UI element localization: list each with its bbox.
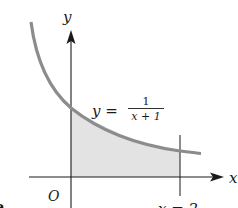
equation-numerator: 1 <box>143 95 150 108</box>
equation-denominator: x + 1 <box>131 110 160 123</box>
boundary-label: x = 2 <box>158 200 198 208</box>
x-axis-label: x <box>229 169 238 187</box>
origin-label: O <box>48 188 60 204</box>
area-diagram: y x O y = 1 x + 1 x = 2 a <box>0 0 238 208</box>
corner-glyph: a <box>0 198 5 208</box>
y-axis-label: y <box>62 8 72 26</box>
equation-lhs: y = <box>91 102 118 120</box>
curve <box>31 22 201 154</box>
